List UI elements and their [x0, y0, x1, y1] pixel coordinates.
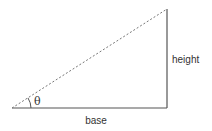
base-label: base: [85, 115, 107, 126]
angle-arc: [28, 98, 31, 108]
angle-label: θ: [34, 95, 41, 108]
triangle-diagram: θ height base: [0, 0, 212, 131]
height-label: height: [172, 54, 199, 65]
hypotenuse-line: [12, 9, 167, 108]
